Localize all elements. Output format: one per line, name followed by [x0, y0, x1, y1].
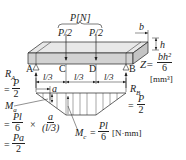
section-modulus-unit: [mm³] [150, 75, 173, 84]
span-1-label: l/3 [43, 73, 53, 82]
moment-a-equals-2: = [4, 140, 10, 150]
moment-a-fraction-2: a (l/3) [42, 112, 59, 133]
times-sign: × [30, 120, 36, 130]
moment-c-unit: [N·mm] [112, 129, 142, 138]
beam-top-face [28, 42, 148, 53]
point-d-label: D [89, 64, 96, 74]
moment-a-fraction-1: Pl 6 [12, 112, 23, 133]
moment-c-label: Mc [75, 128, 86, 141]
point-c-label: C [59, 64, 66, 74]
support-a [33, 64, 39, 70]
load-left-label: P/2 [58, 28, 72, 38]
reaction-a-equals: = [4, 85, 10, 95]
width-b-label: b [139, 22, 144, 32]
total-load-label: P[N] [70, 13, 91, 23]
section-modulus-label: Z= [140, 59, 154, 70]
moment-c-fraction: Pl 6 [98, 121, 109, 142]
load-right-label: P/2 [89, 28, 103, 38]
reaction-b-equals: = [128, 101, 134, 111]
span-3-label: l/3 [104, 73, 114, 82]
span-2-label: l/3 [74, 73, 84, 82]
beam-front-face [28, 53, 133, 64]
moment-c-equals: = [90, 128, 96, 138]
moment-a-equals-1: = [4, 120, 10, 130]
point-b-label: B [129, 64, 136, 74]
moment-a-result: Pa 2 [12, 133, 25, 154]
reaction-b-fraction: P 2 [137, 94, 145, 115]
section-modulus-fraction: bh² 6 [157, 52, 172, 73]
height-h-label: h [160, 40, 165, 50]
reaction-a-fraction: P 2 [12, 78, 20, 99]
distance-a-label: a [52, 84, 57, 94]
point-a-label: A [26, 64, 33, 74]
